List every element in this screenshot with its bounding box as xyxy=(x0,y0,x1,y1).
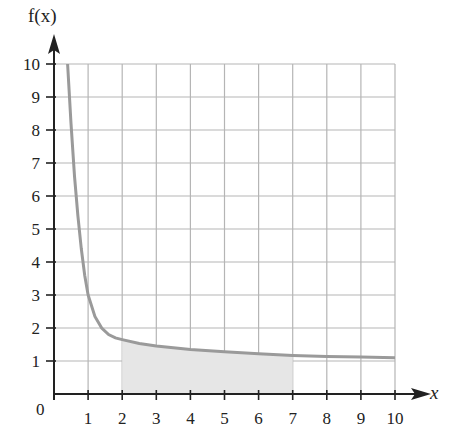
x-tick-label: 6 xyxy=(254,409,263,428)
x-tick-label: 1 xyxy=(84,409,93,428)
x-tick-label: 7 xyxy=(288,409,297,428)
y-tick-label: 2 xyxy=(32,319,41,338)
y-tick-label: 10 xyxy=(23,55,40,74)
axes xyxy=(46,34,431,400)
shaded-area xyxy=(122,340,293,394)
y-tick-label: 8 xyxy=(32,121,41,140)
y-tick-label: 1 xyxy=(32,352,41,371)
x-tick-label: 3 xyxy=(152,409,161,428)
y-axis-title: f(x) xyxy=(28,5,56,27)
x-tick-label: 5 xyxy=(220,409,229,428)
curve-fx xyxy=(68,64,395,358)
y-tick-label: 9 xyxy=(32,88,41,107)
origin-label: 0 xyxy=(36,400,45,419)
y-tick-label: 5 xyxy=(32,220,41,239)
y-tick-label: 6 xyxy=(32,187,41,206)
x-axis-title: x xyxy=(429,382,439,403)
x-tick-label: 4 xyxy=(186,409,195,428)
grid xyxy=(54,64,395,394)
x-tick-label: 10 xyxy=(387,409,404,428)
y-tick-label: 4 xyxy=(32,253,41,272)
x-tick-label: 8 xyxy=(323,409,332,428)
x-tick-label: 2 xyxy=(118,409,127,428)
chart: 1234567891012345678910 f(x) x 0 xyxy=(0,0,459,440)
y-tick-label: 3 xyxy=(32,286,41,305)
x-tick-label: 9 xyxy=(357,409,366,428)
y-tick-label: 7 xyxy=(32,154,41,173)
